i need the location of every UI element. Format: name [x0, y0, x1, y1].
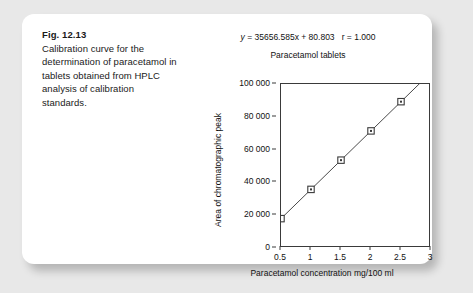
- x-tick-mark: [340, 246, 341, 250]
- x-axis-ticks: 0.511.522.53: [280, 250, 430, 266]
- y-tick-mark: [272, 83, 276, 84]
- y-tick-label: 60 000: [244, 144, 270, 154]
- figure-caption: Fig. 12.13 Calibration curve for the det…: [42, 28, 180, 110]
- y-tick-mark: [272, 148, 276, 149]
- x-tick-label: 2: [368, 252, 373, 262]
- data-point-marker: [398, 98, 404, 104]
- x-tick-label: 3: [428, 252, 433, 262]
- x-tick-mark: [430, 246, 431, 250]
- data-point-marker: [281, 215, 284, 221]
- data-point-marker: [338, 157, 344, 163]
- regression-equation: y = 35656.585x + 80.803 r = 1.000: [192, 32, 424, 42]
- y-tick-label: 20 000: [244, 209, 270, 219]
- plot-area: [280, 83, 430, 247]
- x-axis-title: Paracetamol concentration mg/100 ml: [220, 268, 424, 278]
- y-axis-ticks: 020 00040 00060 00080 000100 000: [192, 83, 276, 247]
- plot-svg: [281, 84, 431, 248]
- x-tick-label: 1.5: [334, 252, 346, 262]
- x-tick-label: 0.5: [274, 252, 286, 262]
- y-tick-label: 0: [265, 242, 270, 252]
- figure-caption-text: Calibration curve for the determination …: [42, 42, 180, 110]
- x-tick-mark: [280, 246, 281, 250]
- y-tick-label: 40 000: [244, 176, 270, 186]
- y-axis-title: Area of chromatographic peak: [213, 90, 223, 250]
- figure-number: Fig. 12.13: [42, 28, 180, 42]
- x-tick-label: 2.5: [394, 252, 406, 262]
- y-tick-label: 100 000: [239, 78, 270, 88]
- x-tick-mark: [370, 246, 371, 250]
- chart-title: Paracetamol tablets: [192, 50, 424, 60]
- calibration-chart: y = 35656.585x + 80.803 r = 1.000 Parace…: [192, 18, 424, 262]
- y-tick-mark: [272, 214, 276, 215]
- data-point-marker: [368, 128, 374, 134]
- x-tick-label: 1: [308, 252, 313, 262]
- y-tick-mark: [272, 181, 276, 182]
- figure-page: Fig. 12.13 Calibration curve for the det…: [0, 0, 473, 293]
- x-tick-mark: [310, 246, 311, 250]
- x-tick-mark: [400, 246, 401, 250]
- data-point-marker: [308, 186, 314, 192]
- trendline: [281, 84, 431, 219]
- y-tick-mark: [272, 247, 276, 248]
- equation-body: = 35656.585x + 80.803 r = 1.000: [245, 32, 376, 42]
- y-tick-mark: [272, 115, 276, 116]
- figure-card: Fig. 12.13 Calibration curve for the det…: [22, 14, 432, 264]
- y-tick-label: 80 000: [244, 111, 270, 121]
